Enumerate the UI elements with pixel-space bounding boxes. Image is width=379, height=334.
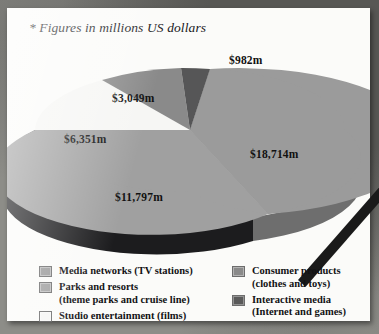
legend-label: Media networks (TV stations) [59,265,193,276]
slice-label-982: $982m [229,54,263,66]
slice-label-11797: $11,797m [115,191,163,203]
legend-label: Interactive media [252,294,331,305]
slice-label-18714: $18,714m [250,148,299,160]
legend-label: Studio entertainment (films) [59,310,186,321]
footnote: * Figures in millions US dollars [29,20,206,36]
legend-column-right: Consumer products (clothes and toys) Int… [232,265,346,322]
legend-swatch-icon [39,282,52,293]
legend-swatch-icon [232,266,245,277]
chart-image: * Figures in millions US dollars [0,0,379,334]
legend-item-studio-entertainment: Studio entertainment (films) [39,310,193,323]
legend-label-sub: (Internet and games) [252,306,346,319]
chart-card: * Figures in millions US dollars [7,8,370,321]
chart-legend: Media networks (TV stations) Parks and r… [14,263,377,329]
callout-leader-line [209,68,379,296]
legend-column-left: Media networks (TV stations) Parks and r… [39,265,193,326]
pie-chart: $982m $3,049m $6,351m $18,714m $11,797m [7,38,370,266]
legend-item-parks-and-resorts: Parks and resorts (theme parks and cruis… [39,281,193,306]
legend-swatch-icon [232,295,245,306]
slice-label-3049: $3,049m [112,92,155,104]
legend-item-media-networks: Media networks (TV stations) [39,265,193,278]
legend-label-sub: (theme parks and cruise line) [59,294,193,307]
legend-item-consumer-products: Consumer products (clothes and toys) [232,265,346,290]
legend-swatch-icon [39,311,52,322]
legend-item-interactive-media: Interactive media (Internet and games) [232,294,346,319]
legend-label: Consumer products [252,265,341,276]
legend-swatch-icon [39,266,52,277]
slice-label-6351: $6,351m [64,133,107,145]
legend-label-sub: (clothes and toys) [252,278,346,291]
legend-label: Parks and resorts [59,281,138,292]
